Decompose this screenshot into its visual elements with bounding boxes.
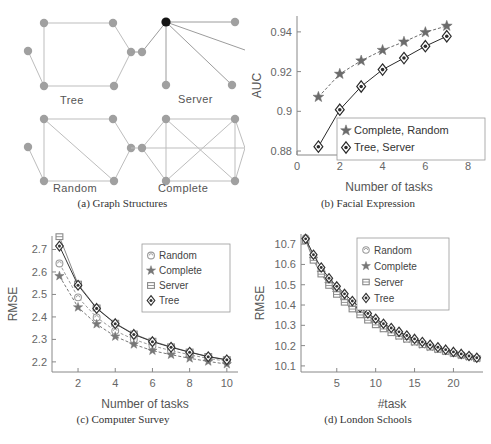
panel-computer-survey: 2.22.32.42.52.62.7246810Number of tasksR… bbox=[0, 222, 246, 444]
marker-circle bbox=[75, 294, 82, 301]
legend-label: Tree, Server bbox=[354, 141, 415, 153]
graph-label-complete: Complete bbox=[158, 182, 208, 194]
x-axis-label: Number of tasks bbox=[345, 180, 432, 194]
marker-diamond bbox=[400, 52, 409, 63]
marker-square bbox=[148, 283, 155, 289]
legend-label: Tree bbox=[374, 293, 395, 304]
x-tick-label: 2 bbox=[337, 160, 343, 172]
marker-circle bbox=[363, 247, 369, 253]
x-tick-label: 5 bbox=[334, 377, 340, 389]
series-line bbox=[318, 26, 446, 97]
chart-legend: RandomCompleteServerTree bbox=[142, 244, 230, 312]
y-tick-label: 0.88 bbox=[271, 145, 292, 157]
x-tick-label: 6 bbox=[422, 160, 428, 172]
marker-star bbox=[334, 68, 345, 78]
y-tick-label: 2.3 bbox=[32, 333, 47, 345]
marker-circle bbox=[148, 252, 155, 259]
y-tick-label: 2.5 bbox=[32, 288, 47, 300]
legend-label: Complete bbox=[159, 265, 202, 276]
x-tick-label: 4 bbox=[112, 377, 118, 389]
server-edges bbox=[131, 22, 245, 85]
panel-graph-structures: Tree Server Random Complete (a) Graph St… bbox=[0, 0, 245, 222]
marker-star bbox=[441, 20, 452, 30]
server-nodes bbox=[138, 18, 239, 89]
y-tick-label: 10.6 bbox=[275, 258, 296, 270]
marker-star bbox=[55, 271, 64, 280]
legend-label: Complete, Random bbox=[354, 124, 449, 136]
figure-multipanel: Tree Server Random Complete (a) Graph St… bbox=[0, 0, 491, 444]
graph-label-random: Random bbox=[53, 182, 97, 194]
marker-square bbox=[56, 234, 63, 240]
panel-london-schools: 10.110.210.310.410.510.610.75101520#task… bbox=[245, 222, 491, 444]
marker-diamond bbox=[421, 41, 430, 52]
y-tick-label: 0.9 bbox=[277, 105, 292, 117]
panel-facial-expression: 0.880.90.920.9402468Number of tasksAUCCo… bbox=[245, 0, 491, 222]
marker-square bbox=[334, 292, 340, 297]
y-tick-label: 10.5 bbox=[275, 279, 296, 291]
x-tick-label: 10 bbox=[370, 377, 382, 389]
random-edges bbox=[28, 119, 131, 181]
marker-diamond bbox=[378, 64, 387, 75]
computer-survey-chart: 2.22.32.42.52.62.7246810Number of tasksR… bbox=[0, 222, 246, 412]
y-tick-label: 2.7 bbox=[32, 243, 47, 255]
graph-label-tree: Tree bbox=[60, 94, 84, 106]
marker-circle bbox=[56, 260, 63, 267]
london-schools-chart: 10.110.210.310.410.510.610.75101520#task… bbox=[245, 222, 491, 412]
y-tick-label: 10.2 bbox=[275, 340, 296, 352]
graph-label-server: Server bbox=[178, 93, 213, 105]
y-tick-label: 2.4 bbox=[32, 311, 47, 323]
marker-star bbox=[420, 27, 431, 37]
y-axis-label: AUC bbox=[250, 73, 264, 99]
y-tick-label: 10.4 bbox=[275, 299, 296, 311]
y-tick-label: 10.3 bbox=[275, 319, 296, 331]
marker-star bbox=[377, 44, 388, 54]
panel-b-caption: (b) Facial Expression bbox=[245, 197, 491, 209]
marker-square bbox=[341, 300, 347, 305]
legend-label: Server bbox=[374, 277, 404, 288]
x-tick-label: 20 bbox=[447, 377, 459, 389]
y-tick-label: 2.2 bbox=[32, 356, 47, 368]
x-tick-label: 6 bbox=[149, 377, 155, 389]
y-axis-label: RMSE bbox=[6, 287, 20, 322]
y-tick-label: 10.7 bbox=[275, 238, 296, 250]
marker-square bbox=[363, 279, 369, 284]
chart-legend: RandomCompleteServerTree bbox=[357, 238, 449, 310]
x-tick-label: 15 bbox=[408, 377, 420, 389]
marker-square bbox=[357, 312, 363, 317]
x-tick-label: 0 bbox=[294, 160, 300, 172]
complete-edges bbox=[131, 119, 245, 181]
x-axis-label: Number of tasks bbox=[101, 397, 188, 411]
x-tick-label: 8 bbox=[187, 377, 193, 389]
y-tick-label: 0.94 bbox=[271, 26, 292, 38]
x-tick-label: 2 bbox=[75, 377, 81, 389]
y-tick-label: 0.92 bbox=[271, 66, 292, 78]
legend-label: Server bbox=[159, 280, 189, 291]
complete-nodes bbox=[138, 115, 239, 185]
legend-label: Random bbox=[374, 245, 412, 256]
server-hub-node bbox=[161, 17, 170, 26]
panel-d-caption: (d) London Schools bbox=[245, 413, 491, 425]
y-axis-label: RMSE bbox=[253, 286, 267, 321]
marker-star bbox=[356, 55, 367, 65]
x-tick-label: 8 bbox=[465, 160, 471, 172]
y-tick-label: 10.1 bbox=[275, 360, 296, 372]
x-tick-label: 4 bbox=[380, 160, 386, 172]
tree-edges bbox=[28, 23, 131, 86]
x-axis-label: #task bbox=[378, 397, 408, 411]
panel-c-caption: (c) Computer Survey bbox=[0, 413, 246, 425]
x-tick-label: 10 bbox=[221, 377, 233, 389]
panel-a-caption: (a) Graph Structures bbox=[0, 197, 245, 209]
chart-legend: Complete, RandomTree, Server bbox=[337, 118, 485, 160]
y-tick-label: 2.6 bbox=[32, 266, 47, 278]
legend-label: Tree bbox=[159, 295, 180, 306]
marker-square bbox=[349, 306, 355, 311]
marker-diamond bbox=[314, 141, 323, 152]
legend-label: Random bbox=[159, 250, 197, 261]
facial-expression-chart: 0.880.90.920.9402468Number of tasksAUCCo… bbox=[245, 0, 491, 195]
marker-diamond bbox=[442, 31, 451, 42]
marker-star bbox=[399, 36, 410, 46]
legend-label: Complete bbox=[374, 261, 417, 272]
